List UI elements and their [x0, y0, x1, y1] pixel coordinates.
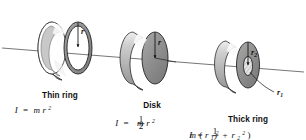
thin-ring-formula-exponent: 2 — [48, 105, 51, 111]
thick-ring-formula-exp-outer: 2 — [242, 130, 245, 136]
thin-ring-formula-mass: m — [33, 105, 40, 115]
thick-ring-formula-sub-outer: 2 — [237, 135, 240, 140]
thick-ring-formula-open: ( — [199, 130, 202, 140]
thin-ring-caption: Thin ring — [42, 91, 78, 100]
disk-formula-symbol: I — [114, 118, 119, 128]
thick-ring-radius-inner-label: r1 — [277, 88, 283, 98]
thick-ring-formula-mass: m — [190, 130, 197, 140]
thin-ring-formula-equals: = — [23, 105, 28, 115]
object-thick-ring: r2 r1 Thick ring I = 1 2 m ( r 1 — [188, 41, 283, 140]
thick-ring-formula-radius-outer: r — [231, 130, 235, 140]
thin-ring-formula: I = m r 2 — [14, 105, 51, 115]
disk-formula: I = 1 2 m r 2 — [114, 114, 155, 131]
svg-text:m r 2: m r 2 — [137, 118, 155, 128]
thick-ring-formula-exp-inner: 2 — [216, 130, 219, 136]
thick-ring-formula-sub-inner: 1 — [211, 135, 214, 140]
thick-ring-formula-plus: + — [222, 130, 227, 140]
thick-ring-formula-radius-inner: r — [205, 130, 209, 140]
object-thin-ring: r Thin ring I = m r 2 — [14, 22, 92, 115]
svg-text:I = m: I = m r 2 — [14, 105, 51, 115]
disk-formula-mass: m — [137, 118, 144, 128]
thick-ring-formula-close: ) — [247, 130, 250, 140]
disk-formula-exponent: 2 — [152, 118, 155, 124]
thick-ring-r1-subscript: 1 — [280, 92, 283, 98]
thin-ring-formula-radius: r — [43, 105, 47, 115]
thick-ring-caption: Thick ring — [228, 115, 268, 124]
moment-of-inertia-diagram: r Thin ring I = m r 2 r Disk — [0, 0, 306, 140]
thin-ring-formula-symbol: I — [14, 105, 19, 115]
thick-ring-r2-subscript: 2 — [253, 52, 257, 58]
thick-ring-formula: I = 1 2 m ( r 1 2 + r 2 2 ) — [188, 126, 250, 140]
disk-caption: Disk — [143, 101, 161, 110]
object-disk: r Disk I = 1 2 m r 2 — [114, 32, 176, 131]
svg-text:I =: I = — [114, 118, 128, 128]
svg-text:m ( r: m ( r 1 2 + r 2 2 ) — [190, 127, 251, 140]
disk-formula-radius: r — [146, 118, 150, 128]
disk-formula-equals: = — [124, 118, 129, 128]
